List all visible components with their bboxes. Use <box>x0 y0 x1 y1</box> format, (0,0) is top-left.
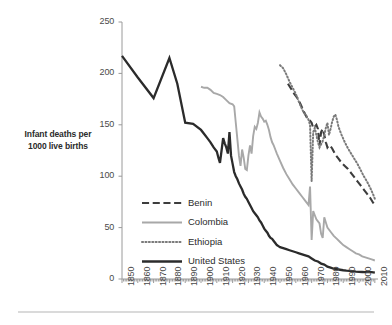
x-axis-tick-label: 1890 <box>189 267 199 286</box>
series-line-colombia <box>201 87 375 261</box>
legend-label-benin: Benin <box>188 197 212 208</box>
legend-label-united-states: United States <box>188 255 245 266</box>
infant-mortality-chart: Infant deaths per 1000 live births 05010… <box>0 0 392 325</box>
x-axis-tick-label: 1900 <box>205 267 215 286</box>
y-axis-tick-label: 250 <box>84 16 114 26</box>
x-axis-tick-label: 2000 <box>363 267 373 286</box>
x-axis-tick-label: 1860 <box>142 267 152 286</box>
x-axis-tick-label: 2010 <box>379 267 389 286</box>
x-axis-tick-label: 1930 <box>252 267 262 286</box>
y-axis-tick-label: 0 <box>84 273 114 283</box>
x-axis-tick-label: 1960 <box>300 267 310 286</box>
y-axis-tick-label: 200 <box>84 67 114 77</box>
x-axis-tick-label: 1970 <box>316 267 326 286</box>
y-axis-tick-label: 50 <box>84 222 114 232</box>
series-line-ethiopia <box>280 65 375 199</box>
legend-label-colombia: Colombia <box>188 216 228 227</box>
x-axis-tick-label: 1950 <box>284 267 294 286</box>
y-axis-tick-label: 100 <box>84 170 114 180</box>
x-axis-tick-label: 1870 <box>158 267 168 286</box>
x-axis-tick-label: 1940 <box>268 267 278 286</box>
legend-label-ethiopia: Ethiopia <box>188 236 222 247</box>
x-axis-tick-label: 1990 <box>347 267 357 286</box>
series-line-benin <box>288 84 375 205</box>
x-axis-tick-label: 1920 <box>237 267 247 286</box>
x-axis-tick-label: 1880 <box>173 267 183 286</box>
x-axis-tick-label: 1850 <box>126 267 136 286</box>
y-axis-tick-label: 150 <box>84 119 114 129</box>
x-axis-tick-label: 1910 <box>221 267 231 286</box>
x-axis-tick-label: 1980 <box>331 267 341 286</box>
